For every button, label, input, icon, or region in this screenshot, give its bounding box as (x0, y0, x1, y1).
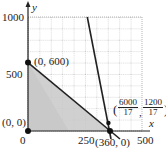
vertex-intersection (106, 121, 110, 125)
vertex-0-600 (25, 60, 31, 66)
intersection-y-fraction: 1200 17 (143, 98, 163, 117)
vertex-360-0 (107, 128, 113, 134)
y-tick-1000: 1000 (2, 12, 24, 23)
y-axis-label: y (32, 2, 37, 13)
intersection-x-fraction: 6000 17 (118, 98, 138, 117)
x-tick-250: 250 (78, 135, 95, 146)
x-axis-label: x (149, 118, 154, 129)
vertex-label-0-600: (0, 600) (34, 56, 69, 67)
y-axis-arrow (26, 1, 31, 7)
vertex-label-0-0: (0, 0) (2, 117, 26, 128)
vertex-label-360-0: (360, 0) (95, 137, 130, 148)
y-tick-500: 500 (6, 69, 23, 80)
x-tick-0: 0 (20, 135, 26, 146)
x-tick-500: 500 (137, 135, 154, 146)
